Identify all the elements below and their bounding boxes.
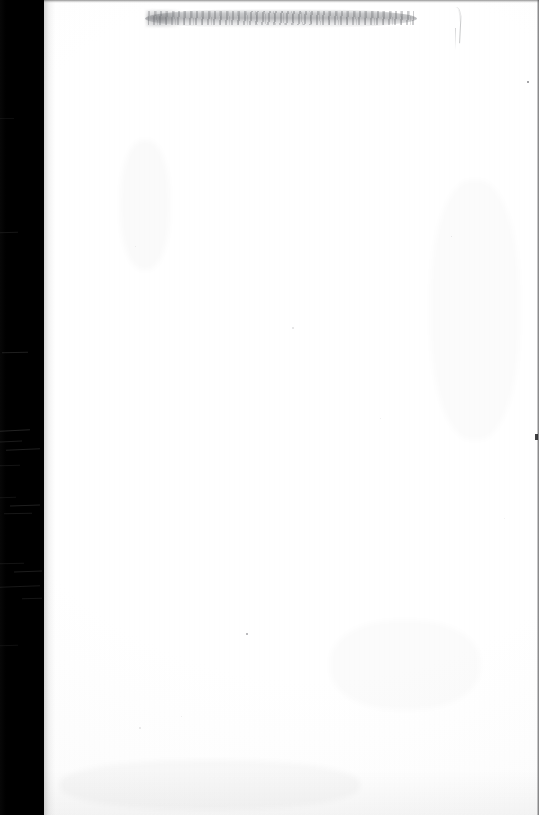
- gutter-scratch: [0, 429, 30, 432]
- gutter-scratch: [0, 465, 20, 466]
- gutter-scratch: [0, 563, 24, 564]
- spine-gutter: [0, 0, 44, 815]
- gutter-scratch: [0, 441, 22, 443]
- gutter-scratch: [0, 645, 18, 646]
- gutter-scratch: [0, 585, 40, 588]
- gutter-scratch: [0, 497, 16, 498]
- gutter-scratch: [10, 504, 40, 506]
- gutter-scratch: [2, 352, 28, 354]
- gutter-scratch: [6, 448, 40, 450]
- paper-surface: [44, 0, 539, 815]
- gutter-scratch: [22, 598, 42, 599]
- gutter-scratch: [0, 232, 18, 234]
- gutter-scratch: [0, 118, 14, 119]
- gutter-scratch: [4, 513, 32, 515]
- gutter-scratch: [14, 571, 42, 573]
- scanned-page-canvas: [0, 0, 539, 815]
